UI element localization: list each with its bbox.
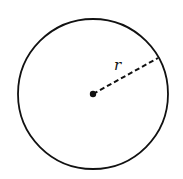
radius-line <box>93 58 158 94</box>
center-dot <box>90 91 96 97</box>
radius-label: r <box>114 56 122 74</box>
circle-diagram: r <box>0 0 183 179</box>
